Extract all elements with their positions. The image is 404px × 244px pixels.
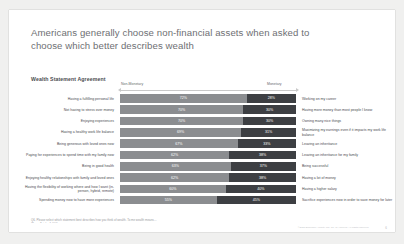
row-label-monetary: Having a higher salary — [302, 187, 394, 191]
bar-segment-non-monetary: 62% — [120, 173, 229, 182]
slide-canvas: Americans generally choose non-financial… — [9, 10, 395, 232]
bar-segment-monetary: 31% — [241, 128, 296, 137]
bar-segment-monetary: 38% — [229, 151, 296, 160]
row-label-non-monetary: Being generous with loved ones now — [23, 142, 114, 146]
bar-segment-monetary: 28% — [247, 94, 296, 103]
bar-segment-non-monetary: 70% — [120, 105, 243, 114]
row-label-monetary: Sacrifice experiences now in order to sa… — [302, 198, 394, 202]
stacked-bar: 62%38% — [120, 173, 296, 182]
bar-segment-non-monetary: 69% — [120, 128, 241, 137]
bar-segment-non-monetary: 63% — [120, 162, 231, 171]
row-label-non-monetary: Spending money now to have more experien… — [23, 198, 114, 202]
row-label-monetary: Maximizing my earnings even if it impact… — [302, 128, 394, 136]
copyright-text: ©2023 Empower Annuity Ins. Co. of Americ… — [298, 226, 369, 229]
stacked-bar: 67%33% — [120, 139, 296, 148]
chart-row: Being generous with loved ones now67%33%… — [9, 138, 395, 149]
stacked-bar: 60%40% — [120, 185, 296, 194]
bar-segment-monetary: 38% — [229, 173, 296, 182]
row-label-monetary: Leaving an inheritance for my family — [302, 153, 394, 157]
row-label-non-monetary: Enjoying experiences — [23, 119, 114, 123]
chart-row: Spending money now to have more experien… — [9, 195, 395, 206]
row-label-non-monetary: Having a fulfilling personal life — [23, 97, 114, 101]
row-label-non-monetary: Having the flexibility of working where … — [23, 185, 114, 193]
chart-section-label: Wealth Statement Agreement — [31, 76, 105, 82]
chart-row: Having a fulfilling personal life72%28%W… — [9, 93, 395, 104]
row-label-monetary: Owning many nice things — [302, 119, 394, 123]
bar-segment-non-monetary: 60% — [120, 185, 226, 194]
stacked-bar: 72%28% — [120, 94, 296, 103]
row-label-non-monetary: Being in good health — [23, 164, 114, 168]
row-label-monetary: Having more money than most people I kno… — [302, 108, 394, 112]
stacked-bar: 70%30% — [120, 117, 296, 126]
bar-segment-monetary: 37% — [231, 162, 296, 171]
row-label-monetary: Leaving an inheritance — [302, 142, 394, 146]
bar-segment-monetary: 45% — [217, 196, 296, 205]
chart-row: Having the flexibility of working where … — [9, 183, 395, 194]
bar-segment-non-monetary: 62% — [120, 151, 229, 160]
stacked-bar: 62%38% — [120, 151, 296, 160]
bar-segment-non-monetary: 67% — [120, 139, 238, 148]
chart-row: Not having to stress over money70%30%Hav… — [9, 104, 395, 115]
chart-row: Paying for experiences to spend time wit… — [9, 149, 395, 160]
chart-row: Having a healthy work life balance69%31%… — [9, 127, 395, 138]
row-label-non-monetary: Having a healthy work life balance — [23, 130, 114, 134]
legend-axis-line — [121, 90, 296, 91]
slide-footer: ©2023 Empower Annuity Ins. Co. of Americ… — [9, 223, 395, 232]
chart-row: Enjoying healthy relationships with fami… — [9, 172, 395, 183]
stacked-bar: 55%45% — [120, 196, 296, 205]
legend-item-monetary: Monetary — [267, 82, 282, 86]
row-label-non-monetary: Paying for experiences to spend time wit… — [23, 153, 114, 157]
bar-segment-monetary: 33% — [238, 139, 296, 148]
row-label-non-monetary: Enjoying healthy relationships with fami… — [23, 176, 114, 180]
stacked-bar: 63%37% — [120, 162, 296, 171]
bar-segment-non-monetary: 72% — [120, 94, 247, 103]
page-number: 6 — [385, 226, 387, 230]
row-label-monetary: Working on my career — [302, 97, 394, 101]
chart-rows: Having a fulfilling personal life72%28%W… — [9, 93, 395, 206]
stacked-bar: 70%30% — [120, 105, 296, 114]
bar-segment-monetary: 30% — [243, 105, 296, 114]
stacked-bar: 69%31% — [120, 128, 296, 137]
legend-item-non-monetary: Non-Monetary — [121, 82, 143, 86]
bar-segment-monetary: 40% — [226, 185, 296, 194]
page-title: Americans generally choose non-financial… — [31, 27, 341, 52]
bar-segment-non-monetary: 70% — [120, 117, 243, 126]
chart-row: Being in good health63%37%Being successf… — [9, 161, 395, 172]
chart-row: Enjoying experiences70%30%Owning many ni… — [9, 116, 395, 127]
bar-segment-non-monetary: 55% — [120, 196, 217, 205]
row-label-monetary: Having a lot of money — [302, 176, 394, 180]
bar-segment-monetary: 30% — [243, 117, 296, 126]
row-label-non-monetary: Not having to stress over money — [23, 108, 114, 112]
row-label-monetary: Being successful — [302, 164, 394, 168]
